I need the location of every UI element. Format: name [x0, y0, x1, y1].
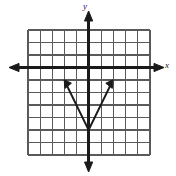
x-axis-arrow-left: [9, 63, 19, 71]
x-axis: [9, 63, 164, 71]
function-right-branch: [89, 85, 111, 131]
y-axis-arrow-up: [85, 11, 93, 21]
y-axis-label: y: [83, 2, 87, 11]
y-axis: [85, 11, 93, 172]
y-axis-arrow-down: [85, 162, 93, 172]
function-left-branch: [66, 85, 88, 131]
coordinate-plane-svg: [0, 0, 176, 176]
x-axis-label: x: [165, 61, 169, 70]
x-axis-arrow-right: [154, 63, 164, 71]
coordinate-graph-figure: y x: [0, 0, 176, 176]
